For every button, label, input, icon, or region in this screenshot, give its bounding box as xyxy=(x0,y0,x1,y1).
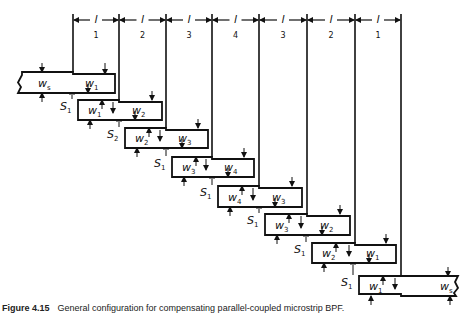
width-label: w2 xyxy=(322,247,335,262)
width-label: w3 xyxy=(275,219,288,234)
filter-layout-diagram: l1l2l3l4l3l2l1wsw1S1w1w2S2w2w3S1w3w4S1w4… xyxy=(0,0,475,319)
width-label: w3 xyxy=(272,191,285,206)
gap-label: S1 xyxy=(60,100,71,115)
section-number: 1 xyxy=(375,31,380,40)
input-feed-line xyxy=(18,72,115,93)
caption-text: General configuration for compensating p… xyxy=(58,303,345,313)
section-length-label: l xyxy=(376,13,379,26)
gap-label: S1 xyxy=(341,276,352,291)
width-label: w3 xyxy=(182,161,195,176)
gap-label: S2 xyxy=(107,128,118,143)
width-label: w2 xyxy=(320,219,333,234)
labels: l1l2l3l4l3l2l1wsw1S1w1w2S2w2w3S1w3w4S1w4… xyxy=(38,13,453,295)
width-label: w1 xyxy=(85,77,98,92)
width-label: w4 xyxy=(228,191,242,206)
width-label: w3 xyxy=(178,132,191,147)
section-number: 2 xyxy=(328,31,333,40)
width-label: w1 xyxy=(369,280,382,295)
width-label: ws xyxy=(440,280,453,295)
gap-label: S1 xyxy=(294,243,305,258)
gap-label: S1 xyxy=(200,186,211,201)
gap-label: S1 xyxy=(154,157,165,172)
section-number: 3 xyxy=(186,31,191,40)
width-label: w1 xyxy=(88,104,101,119)
section-length-label: l xyxy=(281,13,284,26)
resonators xyxy=(18,72,458,296)
section-number: 3 xyxy=(280,31,285,40)
section-length-label: l xyxy=(329,13,332,26)
figure-number: Figure 4.15 xyxy=(2,303,50,313)
width-label: w4 xyxy=(224,161,238,176)
gap-label: S1 xyxy=(247,214,258,229)
figure-caption: Figure 4.15General configuration for com… xyxy=(2,303,344,313)
section-length-label: l xyxy=(141,13,144,26)
width-label: w1 xyxy=(366,247,379,262)
section-number: 2 xyxy=(140,31,145,40)
section-length-label: l xyxy=(94,13,97,26)
section-number: 4 xyxy=(233,31,238,40)
width-label: w2 xyxy=(132,104,145,119)
section-number: 1 xyxy=(93,31,98,40)
width-label: ws xyxy=(38,77,51,92)
section-length-label: l xyxy=(187,13,190,26)
width-label: w2 xyxy=(135,132,148,147)
section-length-label: l xyxy=(234,13,237,26)
